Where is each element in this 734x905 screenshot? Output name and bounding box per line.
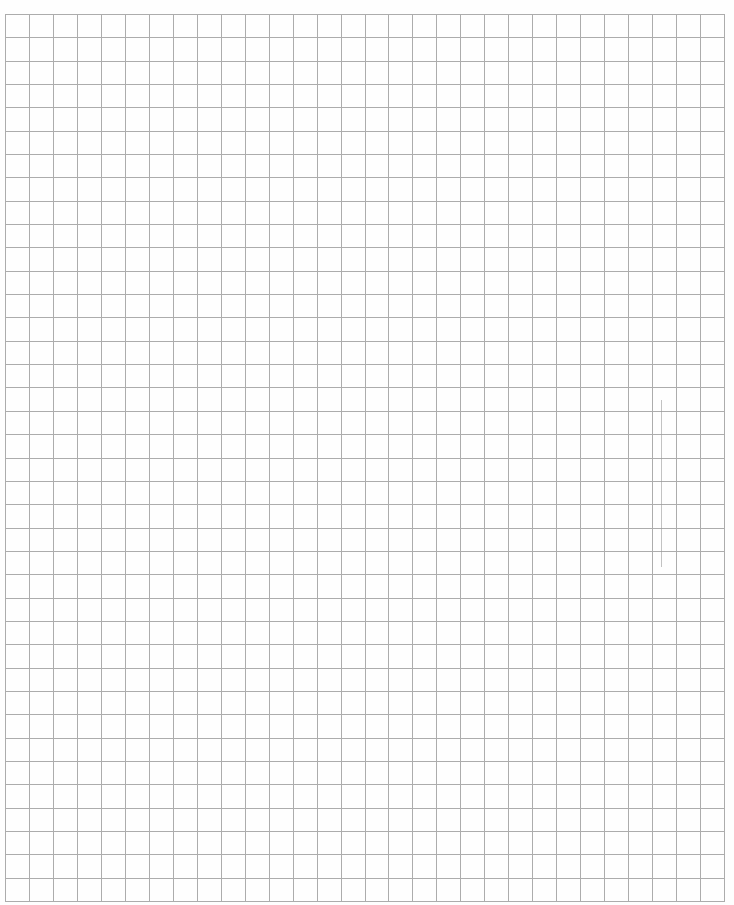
pencil-line-mark <box>661 400 662 567</box>
graph-grid <box>5 14 725 902</box>
grid-lines <box>5 14 725 902</box>
graph-paper-page <box>0 0 734 905</box>
